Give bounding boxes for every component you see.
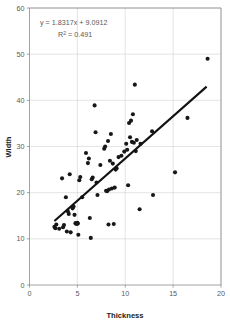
data-point (60, 176, 64, 180)
data-point (88, 216, 92, 220)
data-point (125, 148, 129, 152)
data-point (86, 161, 90, 165)
x-tick-label: 0 (28, 289, 32, 298)
data-point (95, 193, 99, 197)
data-point (128, 135, 132, 139)
data-point (185, 116, 189, 120)
y-tick-label: 10 (17, 234, 25, 243)
data-point (76, 222, 80, 226)
data-point (84, 151, 88, 155)
data-point (76, 233, 80, 237)
data-point (173, 170, 177, 174)
data-point (111, 162, 115, 166)
data-point (93, 103, 97, 107)
x-tick-label: 15 (169, 289, 177, 298)
data-point (91, 175, 95, 179)
y-tick-label: 60 (17, 4, 25, 13)
data-point (113, 186, 117, 190)
data-point (94, 130, 98, 134)
y-tick-label: 20 (17, 188, 25, 197)
tick-marks (27, 8, 221, 288)
chart-canvas: 0102030405060 05101520 Thickness Width y… (0, 0, 230, 323)
x-tick-label: 20 (217, 289, 225, 298)
data-point (98, 163, 102, 167)
y-tick-label: 50 (17, 50, 25, 59)
y-axis-title: Width (4, 136, 13, 157)
x-tick-label: 5 (75, 289, 79, 298)
r-squared-label: R2 = 0.491 (58, 30, 92, 39)
data-point (89, 236, 93, 240)
regression-equation-label: y = 1.8317x + 9.0912 (40, 18, 108, 27)
x-axis-tick-labels: 05101520 (28, 289, 226, 298)
data-point (119, 154, 123, 158)
data-point (151, 193, 155, 197)
x-tick-label: 10 (121, 289, 129, 298)
y-axis-tick-labels: 0102030405060 (17, 4, 25, 290)
data-point (135, 138, 139, 142)
data-point (138, 207, 142, 211)
data-point (78, 175, 82, 179)
y-tick-label: 30 (17, 142, 25, 151)
data-point (133, 83, 137, 87)
data-point (53, 226, 57, 230)
data-point (54, 222, 58, 226)
data-point (109, 132, 113, 136)
scatter-chart: 0102030405060 05101520 Thickness Width y… (0, 0, 230, 323)
data-point (112, 222, 116, 226)
data-point (62, 223, 66, 227)
data-point (206, 57, 210, 61)
data-point (124, 142, 128, 146)
y-tick-label: 40 (17, 96, 25, 105)
data-point (126, 183, 130, 187)
data-point (106, 139, 110, 143)
data-point (65, 229, 69, 233)
data-point (72, 213, 76, 217)
data-points (52, 57, 209, 240)
r-squared-value: = 0.491 (66, 30, 92, 39)
data-point (64, 195, 68, 199)
data-point (129, 119, 133, 123)
data-point (57, 227, 61, 231)
data-point (68, 172, 72, 176)
data-point (103, 144, 107, 148)
data-point (67, 212, 71, 216)
data-point (69, 230, 73, 234)
y-tick-label: 0 (21, 281, 25, 290)
x-axis-title: Thickness (106, 311, 143, 320)
data-point (87, 156, 91, 160)
data-point (106, 222, 110, 226)
data-point (131, 112, 135, 116)
grid-lines (30, 8, 222, 285)
